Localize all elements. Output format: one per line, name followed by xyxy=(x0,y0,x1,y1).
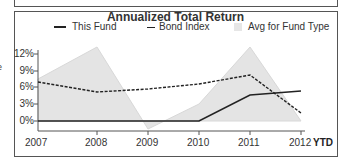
ytd-label: YTD xyxy=(313,137,333,148)
avg-area xyxy=(38,47,301,129)
x-tick-label: 2007 xyxy=(25,137,47,148)
x-tick-label: 2012 xyxy=(289,137,311,148)
x-tick-label: 2009 xyxy=(136,137,158,148)
x-tick-label: 2010 xyxy=(187,137,209,148)
x-tick-label: 2008 xyxy=(85,137,107,148)
x-tick-label: 2011 xyxy=(238,137,260,148)
